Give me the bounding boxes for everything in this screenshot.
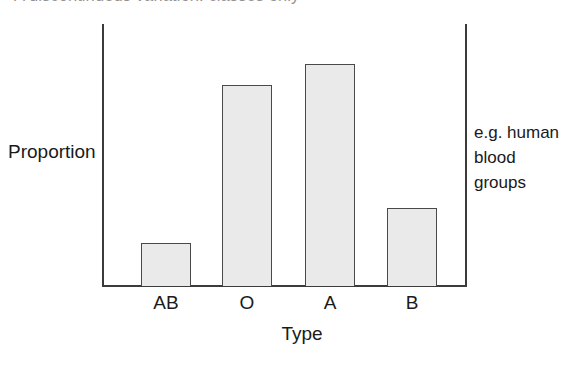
side-annotation-line-3: groups (474, 170, 574, 195)
x-tick-label-ab: AB (136, 291, 196, 315)
y-axis-title: Proportion (8, 140, 98, 164)
x-axis-title: Type (232, 322, 372, 346)
bar-a (305, 64, 355, 286)
x-tick-label-o: O (217, 291, 277, 315)
figure-container: A discontinuous variation: classes only … (0, 0, 574, 371)
side-annotation-line-1: e.g. human (474, 120, 574, 145)
side-annotation: e.g. human blood groups (474, 120, 574, 195)
x-tick-label-b: B (382, 291, 442, 315)
bar-ab (141, 243, 191, 286)
x-tick-label-a: A (300, 291, 360, 315)
side-annotation-line-2: blood (474, 145, 574, 170)
bar-o (222, 85, 272, 286)
bar-b (387, 208, 437, 286)
